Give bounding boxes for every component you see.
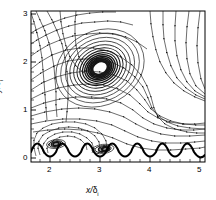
y-axis-label: y/δi (0, 80, 6, 93)
y-axis-label-symbol: δ (0, 81, 2, 86)
y-axis-label-sub: i (0, 80, 4, 81)
y-tick-label-2: 2 (23, 58, 27, 66)
streamline-plot-svg (0, 0, 216, 200)
y-axis-label-main: y/ (0, 86, 2, 93)
x-axis-ticks (40, 157, 200, 162)
x-axis-label-sub: i (97, 191, 98, 197)
x-tick-label-1: 3 (97, 166, 101, 174)
x-axis-label-main: x/ (86, 185, 93, 195)
x-axis-label: x/δi (86, 186, 99, 199)
x-tick-label-3: 5 (197, 166, 201, 174)
x-tick-label-2: 4 (147, 166, 151, 174)
right-descending-streamlines-group (150, 11, 205, 101)
y-tick-label-0: 0 (23, 154, 27, 162)
plot-interior (31, 11, 205, 157)
figure-container: 2 3 4 5 0 1 2 3 x/δi y/δi (0, 0, 216, 200)
separation-bubble-streamlines (34, 122, 107, 156)
y-tick-label-3: 3 (23, 10, 27, 18)
x-tick-label-0: 2 (47, 166, 51, 174)
y-tick-label-1: 1 (23, 106, 27, 114)
